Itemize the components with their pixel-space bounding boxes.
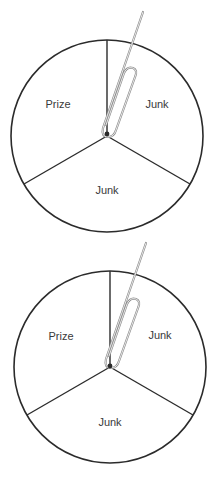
divider-line <box>107 136 190 184</box>
sector-label-junk: Junk <box>98 417 121 428</box>
divider-line <box>110 367 193 415</box>
divider-line <box>24 136 107 184</box>
pivot-dot <box>108 364 113 369</box>
sector-label-junk: Junk <box>145 99 168 110</box>
divider-line <box>27 367 110 415</box>
spinner-bottom: Prize Junk Junk <box>0 240 220 480</box>
sector-label-junk: Junk <box>95 185 118 196</box>
sector-label-junk: Junk <box>148 330 171 341</box>
spinner-graphic <box>0 240 220 480</box>
spinner-graphic <box>0 0 220 240</box>
paperclip-icon <box>106 243 146 368</box>
sector-label-prize: Prize <box>45 99 70 110</box>
pivot-dot <box>105 132 110 137</box>
sector-label-prize: Prize <box>48 331 73 342</box>
spinner-top: Prize Junk Junk <box>0 0 220 240</box>
paperclip-icon <box>103 12 143 137</box>
